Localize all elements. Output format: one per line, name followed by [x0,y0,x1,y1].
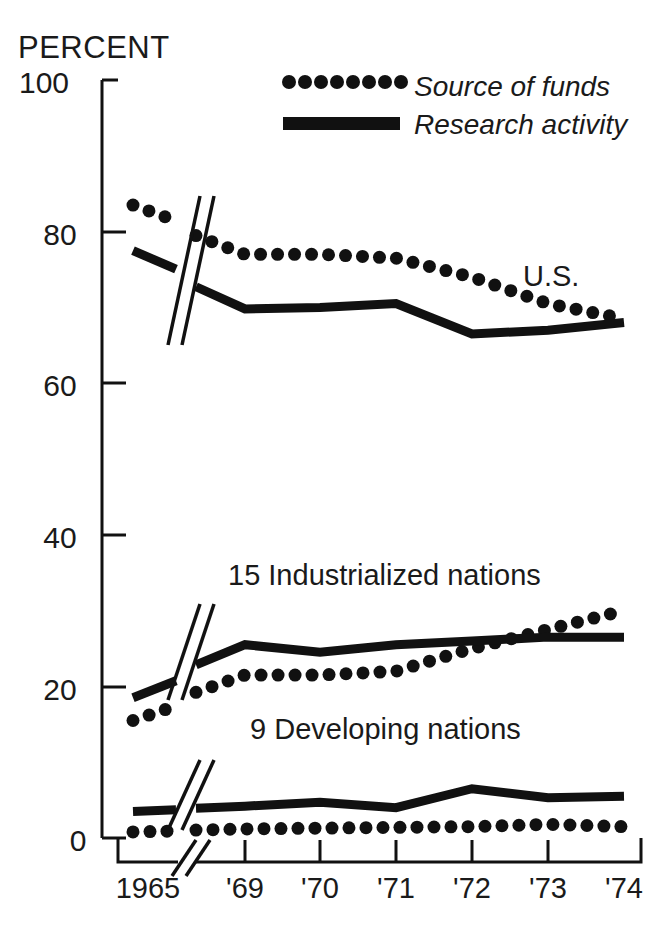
x-tick-label-71: '71 [377,872,415,904]
legend: Source of funds Research activity [282,71,629,140]
series-dotted-pre-2 [127,825,174,839]
x-tick-label-72: '72 [453,872,491,904]
legend-dot [282,75,296,89]
data-point [495,819,508,832]
data-point [439,264,452,277]
data-point [529,818,542,831]
data-point [461,820,474,833]
data-point [240,822,253,835]
data-point [586,306,599,319]
data-point [553,299,566,312]
y-tick-label-20: 20 [43,673,76,706]
data-point [158,210,171,223]
data-point [223,823,236,836]
data-point [554,620,567,633]
legend-dot [314,75,328,89]
data-point [587,612,600,625]
data-point [512,819,525,832]
data-point [308,822,321,835]
x-axis-left-segment [118,838,178,862]
legend-dot [362,75,376,89]
data-point [206,680,219,693]
data-point [142,204,155,217]
data-point [423,260,436,273]
data-point [376,821,389,834]
legend-marker-research-activity [283,117,400,130]
data-point [407,660,420,673]
data-point [127,825,140,838]
y-axis-title: PERCENT [18,30,170,65]
data-point [456,645,469,658]
data-point [359,821,372,834]
legend-dot [330,75,344,89]
data-point [478,820,491,833]
data-point [427,821,440,834]
data-point [339,249,352,262]
x-axis-break-slash-left [172,840,196,876]
series-solid-2 [196,789,624,808]
y-tick-label-60: 60 [43,369,76,402]
data-point [271,248,284,261]
y-tick-label-0: 0 [70,824,87,857]
legend-dot [346,75,360,89]
data-point [580,819,593,832]
data-point [306,669,319,682]
data-point [222,675,235,688]
x-tick-label-70: '70 [301,872,339,904]
chart-container: PERCENT 100 80 60 40 20 0 1965 '69 '70 '… [0,0,662,927]
series-dotted-1 [190,608,617,699]
data-point [274,822,287,835]
data-point [305,248,318,261]
data-point [520,290,533,303]
x-axis-break-slash-right [186,840,210,876]
data-point [238,669,251,682]
data-point [456,268,469,281]
x-tick-label-69: '69 [226,872,264,904]
data-point [406,256,419,269]
x-tick-label-73: '73 [529,872,567,904]
data-point [439,650,452,663]
series-solid-pre-2 [133,810,176,812]
axis-break-slash-2-1 [182,760,214,830]
axis-break-slash-0-1 [182,196,214,345]
data-point [272,669,285,682]
data-point [571,616,584,629]
legend-label-research-activity: Research activity [414,109,629,140]
x-axis-right-segment [196,838,641,862]
data-point [159,703,172,716]
data-point [127,199,140,212]
data-point [410,821,423,834]
data-point [255,669,268,682]
series-solid-pre-0 [133,251,176,270]
data-point [373,666,386,679]
data-point [604,608,617,621]
series-dotted-pre-1 [127,703,172,727]
data-point [254,248,267,261]
series-dotted-pre-0 [127,199,172,224]
data-point [546,818,559,831]
y-tick-label-80: 80 [43,218,76,251]
data-point [504,284,517,297]
data-point [423,655,436,668]
series-group-1 [127,608,625,728]
data-point [205,235,218,248]
legend-dot [378,75,392,89]
data-point [597,820,610,833]
data-point [356,666,369,679]
data-point [563,819,576,832]
data-point [390,252,403,265]
data-point [373,251,386,264]
data-point [472,273,485,286]
data-point [257,822,270,835]
legend-dot [394,75,408,89]
group-label-industrialized: 15 Industrialized nations [228,559,541,591]
legend-dot [298,75,312,89]
series-dotted-2 [190,818,628,837]
legend-marker-source-of-funds [282,75,408,89]
group-label-us: U.S. [523,260,579,292]
data-point [444,820,457,833]
data-point [614,820,627,833]
data-point [323,668,336,681]
axis-break-slash-1-0 [168,604,200,700]
y-tick-label-100: 100 [19,66,69,99]
